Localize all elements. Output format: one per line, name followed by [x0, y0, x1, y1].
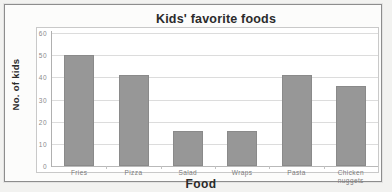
- gridline-50: [52, 55, 378, 56]
- bar: [336, 86, 366, 166]
- bar: [173, 131, 203, 166]
- y-tick-label-50: 50: [23, 52, 47, 59]
- x-tick-label: Salad: [161, 169, 215, 177]
- gridline-20: [52, 122, 378, 123]
- bar: [282, 75, 312, 166]
- bar: [227, 131, 257, 166]
- bar: [119, 75, 149, 166]
- plot-area: [52, 33, 378, 166]
- y-tick-label-0: 0: [23, 163, 47, 170]
- x-tick-label: Fries: [52, 169, 106, 177]
- y-axis-title: No. of kids: [10, 45, 21, 125]
- y-tick-label-10: 10: [23, 140, 47, 147]
- y-tick-label-60: 60: [23, 30, 47, 37]
- y-axis-tick-labels: 0102030405060: [19, 33, 47, 166]
- y-tick-label-40: 40: [23, 74, 47, 81]
- gridline-30: [52, 100, 378, 101]
- chart-outer-frame: Kids' favorite foods 0102030405060 Fries…: [4, 4, 382, 182]
- gridline-40: [52, 77, 378, 78]
- y-tick-label-30: 30: [23, 96, 47, 103]
- gridline-10: [52, 144, 378, 145]
- x-tick-label: Pizza: [106, 169, 160, 177]
- x-tick-label: Wraps: [215, 169, 269, 177]
- chart-title: Kids' favorite foods: [101, 12, 331, 26]
- x-tick-label: Pasta: [269, 169, 323, 177]
- x-axis-title: Food: [5, 177, 392, 191]
- bar: [64, 55, 94, 166]
- y-tick-label-20: 20: [23, 118, 47, 125]
- gridline-60: [52, 33, 378, 34]
